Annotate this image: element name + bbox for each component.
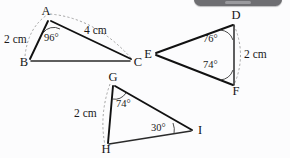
vertex-label-c: C xyxy=(134,55,142,69)
angle-label-i: 30° xyxy=(151,122,166,133)
vertex-label-e: E xyxy=(144,47,152,61)
vertex-label-a: A xyxy=(41,4,50,18)
vertex-label-i: I xyxy=(198,123,202,137)
side-ef xyxy=(156,55,233,85)
side-de xyxy=(156,25,233,53)
triangle-def: D E F 2 cm 76° 74° xyxy=(144,8,267,98)
angle-arc-i xyxy=(173,123,174,134)
figure-page: A B C 2 cm 4 cm 96° D E F 2 cm 76° 74° xyxy=(0,0,290,158)
angle-arc-f xyxy=(220,70,233,80)
triangle-ghi: G H I 2 cm 74° 30° xyxy=(74,70,202,156)
measure-label-df: 2 cm xyxy=(244,48,267,60)
construction-arc-abc-right xyxy=(50,14,131,58)
vertex-label-b: B xyxy=(20,55,28,69)
vertex-label-f: F xyxy=(233,84,240,98)
angle-label-a: 96° xyxy=(44,32,59,43)
triangle-abc: A B C 2 cm 4 cm 96° xyxy=(4,4,142,69)
measure-label-ac: 4 cm xyxy=(84,24,107,36)
side-gh xyxy=(108,86,113,143)
construction-arc-def xyxy=(234,25,241,85)
measure-label-gh: 2 cm xyxy=(74,107,97,119)
angle-label-f: 74° xyxy=(203,59,218,70)
side-hi xyxy=(109,131,191,144)
vertex-label-g: G xyxy=(108,70,117,84)
measure-label-ab: 2 cm xyxy=(4,33,27,45)
angle-label-g: 74° xyxy=(116,98,131,109)
vertex-label-d: D xyxy=(231,8,240,22)
vertex-label-h: H xyxy=(101,142,110,156)
angle-arc-d xyxy=(220,30,233,40)
angle-label-d: 76° xyxy=(203,33,218,44)
triangles-figure: A B C 2 cm 4 cm 96° D E F 2 cm 76° 74° xyxy=(0,0,290,158)
